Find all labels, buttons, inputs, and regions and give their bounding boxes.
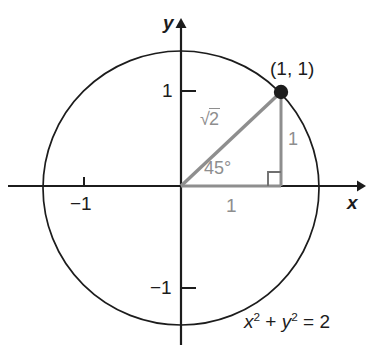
equation-equals: = [298, 311, 320, 332]
equation-y: y [282, 311, 292, 332]
math-figure-canvas: y x 1 −1 −1 1 1 45° √2 (1, 1) x2 + y2 = … [0, 0, 370, 353]
equation-rhs: 2 [319, 311, 330, 332]
x-axis-label: x [347, 193, 358, 212]
equation-plus: + [260, 311, 282, 332]
x-axis-arrowhead [357, 181, 366, 192]
x-tick-label-minus-one: −1 [70, 194, 92, 213]
figure-vector-layer [0, 0, 370, 353]
equation-label: x2 + y2 = 2 [244, 311, 330, 331]
radicand: 2 [209, 108, 220, 129]
triangle-base-label: 1 [226, 196, 237, 215]
angle-label-45: 45° [204, 159, 231, 177]
right-angle-marker-icon [268, 172, 281, 186]
hypotenuse-label: √2 [200, 110, 220, 128]
point-label: (1, 1) [270, 59, 314, 78]
y-axis-label: y [163, 13, 174, 32]
equation-x: x [244, 311, 254, 332]
triangle-height-label: 1 [288, 130, 298, 148]
y-tick-label-minus-one: −1 [150, 278, 172, 297]
y-axis-arrowhead [176, 18, 187, 28]
y-tick-label-one: 1 [162, 81, 173, 100]
plotted-point-marker [274, 85, 288, 99]
